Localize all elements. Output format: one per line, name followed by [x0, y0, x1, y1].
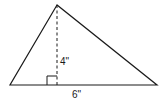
right-angle-marker — [47, 76, 57, 85]
triangle-diagram: 4" 6" — [0, 0, 164, 104]
triangle-outline — [10, 5, 157, 85]
altitude-label: 4" — [60, 56, 70, 67]
base-label: 6" — [72, 89, 82, 100]
